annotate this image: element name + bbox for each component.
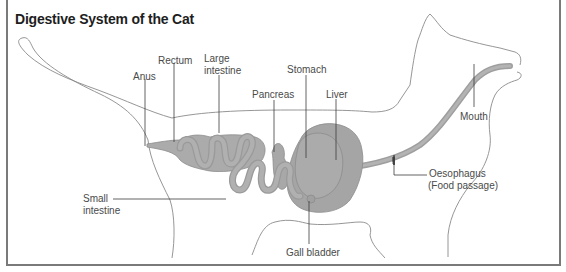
cat-outline [19, 14, 522, 258]
label-rectum: Rectum [158, 55, 192, 67]
label-gall-bladder: Gall bladder [286, 247, 340, 259]
gall-bladder [307, 195, 315, 203]
label-liver: Liver [326, 89, 348, 101]
label-oesophagus-line1: Oesophagus [429, 168, 486, 180]
label-oesophagus-line2: (Food passage) [428, 180, 498, 192]
label-small-intestine-line2: intestine [83, 205, 120, 217]
label-anus: Anus [133, 71, 156, 83]
label-large-intestine-line1: Large [204, 53, 230, 65]
label-pancreas: Pancreas [252, 89, 294, 101]
label-small-intestine-line1: Small [83, 193, 108, 205]
cat-digestive-diagram [0, 0, 566, 272]
label-large-intestine-line2: intestine [204, 65, 241, 77]
label-mouth: Mouth [460, 111, 488, 123]
label-stomach: Stomach [287, 64, 326, 76]
